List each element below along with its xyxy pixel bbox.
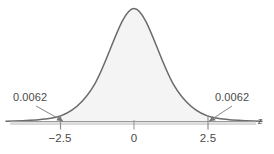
right-tail-area-label: 0.0062	[215, 92, 249, 103]
x-axis-variable-label: z	[258, 116, 262, 127]
x-tick-label-pos-2-5: 2.5	[200, 133, 216, 145]
normal-curve-plot	[0, 0, 274, 154]
x-tick-label-zero: 0	[131, 133, 138, 145]
x-tick-label-neg-2-5: −2.5	[48, 133, 71, 145]
left-tail-area-label: 0.0062	[13, 92, 47, 103]
shaded-area-under-curve	[10, 9, 256, 123]
normal-distribution-figure: 0.0062 0.0062 −2.5 0 2.5 z	[0, 0, 274, 154]
